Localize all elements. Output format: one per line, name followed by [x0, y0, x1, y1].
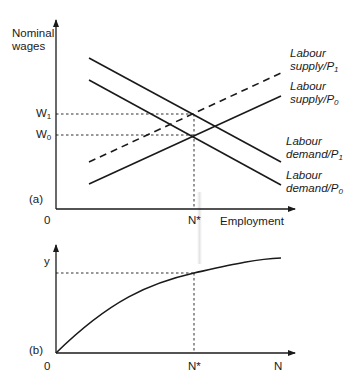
- demand-p0-line1: Labour: [286, 169, 343, 182]
- y-axis-label-a: Nominal wages: [12, 27, 54, 53]
- demand-p1-line1: Labour: [286, 135, 343, 148]
- panel-b-guides: [56, 273, 194, 353]
- panel-b-axes: [56, 245, 295, 353]
- y-axis-label-line1: Nominal: [12, 27, 54, 40]
- demand-p0-line2: demand/P: [286, 182, 338, 194]
- panel-a-axes: [56, 20, 295, 209]
- w0-sub: 0: [47, 133, 51, 142]
- production-function-curve: [56, 258, 281, 353]
- w0-text: W: [36, 128, 47, 140]
- demand-p0-sub: 0: [338, 187, 342, 196]
- y-axis-label-line2: wages: [12, 40, 54, 53]
- demand-p1-label: Labour demand/P1: [286, 135, 343, 161]
- supply-p1-line2: supply/P: [290, 60, 334, 72]
- demand-p0-line: [89, 80, 281, 185]
- w1-sub: 1: [47, 112, 51, 121]
- supply-p0-label: Labour supply/P0: [290, 80, 339, 106]
- x-axis-label-b: N: [274, 360, 282, 373]
- supply-p1-line: [89, 73, 281, 162]
- x-axis-label-a: Employment: [220, 215, 284, 228]
- supply-p1-sub: 1: [334, 65, 338, 74]
- panel-a-label: (a): [29, 193, 43, 206]
- w1-text: W: [36, 107, 47, 119]
- demand-p0-label: Labour demand/P0: [286, 169, 343, 195]
- panel-b-label: (b): [29, 344, 43, 357]
- w1-label: W1: [36, 107, 51, 120]
- origin-label-a: 0: [44, 214, 50, 227]
- supply-p0-line2: supply/P: [290, 93, 334, 105]
- panel-a-guides: [56, 114, 194, 209]
- panel-a-curves: [89, 58, 281, 185]
- supply-p1-line1: Labour: [290, 47, 339, 60]
- w0-label: W0: [36, 128, 51, 141]
- supply-p0-sub: 0: [334, 98, 338, 107]
- nstar-label-a: N*: [188, 214, 201, 227]
- origin-label-b: 0: [44, 360, 50, 373]
- y-axis-label-b: y: [44, 255, 50, 268]
- supply-p1-label: Labour supply/P1: [290, 47, 339, 73]
- supply-p0-line1: Labour: [290, 80, 339, 93]
- demand-p1-line2: demand/P: [286, 148, 338, 160]
- nstar-label-b: N*: [188, 360, 201, 373]
- demand-p1-sub: 1: [338, 153, 342, 162]
